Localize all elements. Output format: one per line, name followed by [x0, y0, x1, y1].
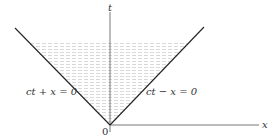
origin-label: 0	[102, 126, 108, 137]
t-axis-label: t	[108, 2, 113, 13]
shaded-cone-region	[30, 42, 189, 125]
left-line-label: ct + x = 0	[26, 86, 78, 97]
x-axis-label: x	[262, 119, 268, 130]
light-cone-diagram: t x 0 ct + x = 0 ct − x = 0	[0, 0, 279, 138]
right-line-label: ct − x = 0	[146, 86, 198, 97]
